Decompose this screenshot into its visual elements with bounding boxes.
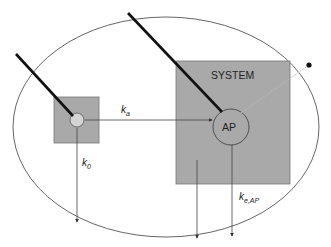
ap-label: AP bbox=[222, 121, 236, 133]
ka-label: ka bbox=[121, 104, 130, 117]
system-label: SYSTEM bbox=[211, 69, 254, 81]
k0-label: k0 bbox=[82, 157, 91, 170]
sampling-dot-icon bbox=[306, 62, 311, 67]
keap-label: ke,AP bbox=[239, 191, 260, 204]
pk-compartment-diagram: SYSTEM AP ka k0 ke,AP bbox=[0, 0, 331, 247]
